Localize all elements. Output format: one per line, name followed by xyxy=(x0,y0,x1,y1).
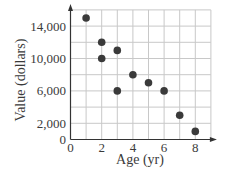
y-tick-labels: 02,0006,00010,00014,000 xyxy=(30,19,66,147)
y-tick-label: 6,000 xyxy=(37,83,66,98)
data-point xyxy=(98,39,106,47)
data-point xyxy=(176,111,184,119)
data-point xyxy=(145,79,153,87)
axes xyxy=(68,4,217,142)
y-tick-label: 2,000 xyxy=(37,116,66,131)
y-tick-label: 0 xyxy=(60,132,67,147)
y-tick-label: 10,000 xyxy=(30,51,66,66)
x-tick-label: 2 xyxy=(98,140,105,155)
x-tick-label: 8 xyxy=(192,140,199,155)
scatter-chart: 02468 02,0006,00010,00014,000 Age (yr) V… xyxy=(0,0,225,180)
x-tick-label: 0 xyxy=(67,140,74,155)
data-point xyxy=(129,71,137,79)
data-point xyxy=(98,55,106,63)
x-axis-label: Age (yr) xyxy=(116,152,164,168)
y-axis-label: Value (dollars) xyxy=(13,38,29,121)
data-point xyxy=(114,87,122,95)
grid-lines xyxy=(71,10,211,140)
data-point xyxy=(114,47,122,55)
data-point xyxy=(160,87,168,95)
x-axis-arrow-icon xyxy=(210,137,217,142)
y-axis-arrow-icon xyxy=(68,4,73,11)
data-point xyxy=(82,14,90,22)
data-point xyxy=(192,128,200,136)
y-tick-label: 14,000 xyxy=(30,19,66,34)
